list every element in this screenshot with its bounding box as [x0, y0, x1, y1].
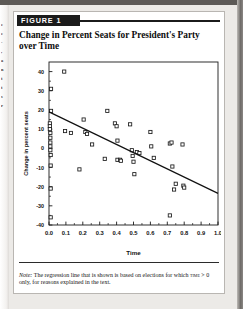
regression-line-path	[49, 112, 218, 194]
x-tick-label: 1.0	[214, 230, 221, 236]
x-axis-ticks: 0.00.10.20.30.40.50.60.70.80.91.0	[45, 222, 221, 236]
x-tick-label: 0.6	[146, 230, 155, 236]
data-point	[49, 216, 52, 219]
margin-text-fragment: r	[1, 103, 9, 110]
scatter-plot: 0.00.10.20.30.40.50.60.70.80.91.0 403020…	[19, 57, 221, 262]
plot-frame	[49, 62, 218, 225]
data-point	[49, 164, 52, 167]
y-tick-label: -10	[36, 165, 44, 171]
x-tick-label: 0.7	[163, 230, 171, 236]
y-tick-label: 30	[38, 88, 44, 94]
data-point	[49, 87, 52, 90]
x-tick-label: 0.8	[180, 230, 189, 236]
data-point	[49, 145, 52, 148]
plot-svg: 0.00.10.20.30.40.50.60.70.80.91.0 403020…	[19, 57, 221, 262]
margin-text-fragment: e	[1, 22, 9, 29]
margin-text-fragment: s	[1, 94, 9, 101]
y-axis-label: Change in percent seats	[23, 111, 29, 176]
data-point	[103, 157, 106, 160]
data-point	[49, 149, 52, 152]
data-point	[132, 160, 135, 163]
margin-text-fragment: t	[1, 76, 9, 83]
data-point	[119, 159, 122, 162]
y-tick-label: -30	[36, 203, 44, 209]
regression-line	[49, 112, 218, 194]
data-point	[49, 153, 52, 156]
data-point	[49, 141, 52, 144]
data-point	[115, 125, 118, 128]
x-tick-label: 0.3	[96, 230, 105, 236]
scan-right-edge	[237, 0, 243, 309]
data-point	[171, 165, 174, 168]
data-point	[63, 129, 66, 132]
x-tick-label: 0.1	[62, 230, 71, 236]
data-point	[174, 182, 177, 185]
y-tick-label: -20	[36, 184, 44, 190]
margin-text-fragment: ,	[1, 49, 9, 56]
data-point	[168, 214, 171, 217]
y-tick-label: 20	[38, 107, 44, 113]
data-point	[63, 70, 66, 73]
x-tick-label: 0.4	[113, 230, 122, 236]
data-point	[183, 186, 186, 189]
y-tick-label: -40	[36, 222, 44, 228]
margin-text-fragment: -	[1, 40, 9, 47]
data-point	[170, 141, 173, 144]
data-point	[150, 145, 153, 148]
margin-text-fragment: a	[1, 58, 9, 65]
data-point	[82, 118, 85, 121]
y-tick-label: 0	[41, 145, 44, 151]
data-point	[49, 131, 52, 134]
data-point	[49, 187, 52, 190]
x-tick-label: 0.2	[79, 230, 87, 236]
data-point	[181, 143, 184, 146]
x-tick-label: 0.5	[129, 230, 138, 236]
margin-text-fragment: e	[1, 31, 9, 38]
data-point	[85, 132, 88, 135]
x-tick-label: 0.9	[197, 230, 206, 236]
data-point	[152, 156, 155, 159]
data-point	[78, 168, 81, 171]
figure-container: FIGURE 1 Change in Percent Seats for Pre…	[13, 11, 225, 294]
note-variable-name: time	[190, 271, 200, 278]
figure-note: Note: The regression line that is shown …	[19, 271, 219, 287]
figure-title: Change in Percent Seats for President's …	[19, 30, 215, 53]
scan-top-edge	[0, 0, 243, 5]
data-point	[131, 154, 134, 157]
data-point	[69, 131, 72, 134]
y-tick-label: 40	[38, 69, 44, 75]
data-point	[116, 139, 119, 142]
note-label: Note:	[19, 272, 32, 278]
figure-header-rule	[80, 20, 220, 22]
data-point	[149, 130, 152, 133]
margin-text-fragment: n	[1, 67, 9, 74]
data-point	[172, 188, 175, 191]
data-point	[133, 173, 136, 176]
data-point	[129, 123, 132, 126]
data-point	[106, 109, 109, 112]
y-tick-label: 10	[38, 126, 44, 132]
figure-number-badge: FIGURE 1	[17, 15, 80, 26]
x-axis-label: Time	[126, 249, 141, 256]
data-point	[90, 143, 93, 146]
data-point	[48, 128, 51, 131]
margin-text-fragment: t	[1, 85, 9, 92]
x-tick-label: 0.0	[45, 230, 53, 236]
data-point	[138, 151, 141, 154]
note-text-part1: The regression line that is shown is bas…	[32, 272, 190, 278]
data-point	[49, 136, 52, 139]
note-divider	[19, 262, 219, 263]
